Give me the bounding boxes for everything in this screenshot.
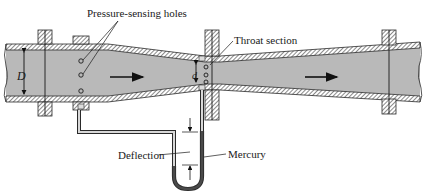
throat-tap-bottom: [199, 85, 205, 90]
pressure-holes-label: Pressure-sensing holes: [87, 7, 187, 19]
throat-section-label: Throat section: [234, 34, 298, 46]
venturi-meter-diagram: Pressure-sensing holes Throat section De…: [0, 0, 430, 195]
mercury-column: [174, 131, 202, 189]
leader-line: [204, 154, 226, 157]
mercury-label: Mercury: [228, 148, 266, 160]
inlet-tap-top: [73, 36, 89, 44]
deflection-label: Deflection: [118, 149, 165, 161]
inlet-diameter-symbol: D: [16, 69, 26, 83]
throat-tap-top: [199, 56, 205, 61]
